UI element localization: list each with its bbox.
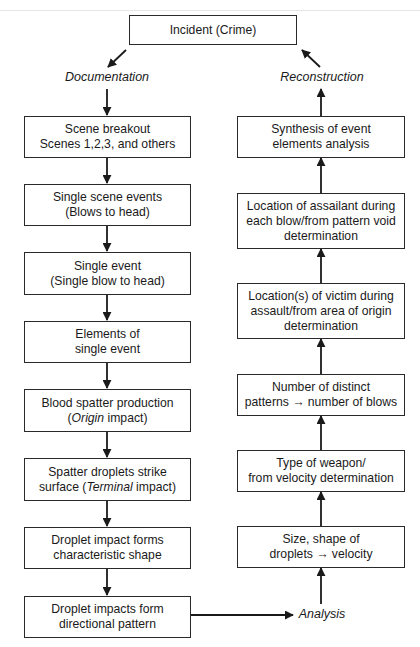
box-line: patterns → number of blows [245, 395, 397, 410]
box-line: Droplet impact forms [51, 533, 163, 548]
box-line: determination [284, 319, 358, 334]
box-line: Size, shape of [282, 532, 359, 547]
documentation-label: Documentation [65, 70, 149, 84]
droplet-impacts-pattern-box: Droplet impacts form directional pattern [24, 596, 191, 638]
box-line: Droplet impacts form [51, 602, 163, 617]
box-line: elements analysis [273, 137, 370, 152]
box-line: directional pattern [59, 617, 156, 632]
box-line: Synthesis of event [271, 122, 371, 137]
box-line: assault/from area of origin [251, 304, 392, 319]
box-line: from velocity determination [248, 471, 394, 486]
box-line: Single scene events [53, 190, 162, 205]
single-event-box: Single event (Single blow to head) [24, 252, 191, 295]
box-line: Single event [74, 259, 141, 274]
box-line-origin: (Origin impact) [68, 411, 148, 426]
scene-breakout-box: Scene breakout Scenes 1,2,3, and others [24, 116, 191, 158]
assailant-location-box: Location of assailant during each blow/f… [237, 193, 405, 249]
incident-label: Incident (Crime) [170, 23, 257, 38]
box-line: each blow/from pattern void [246, 214, 396, 229]
terminal-italic: Terminal [86, 480, 132, 494]
droplet-impact-shape-box: Droplet impact forms characteristic shap… [24, 527, 191, 569]
box-line: (Blows to head) [65, 205, 150, 220]
box-line: droplets → velocity [270, 547, 373, 562]
box-line: Spatter droplets strike [48, 465, 167, 480]
box-line: Elements of [75, 327, 139, 342]
box-line: characteristic shape [53, 548, 161, 563]
single-scene-events-box: Single scene events (Blows to head) [24, 184, 191, 226]
spatter-droplets-strike-box: Spatter droplets strike surface (Termina… [24, 458, 191, 501]
blood-spatter-production-box: Blood spatter production (Origin impact) [24, 389, 191, 432]
number-of-patterns-box: Number of distinct patterns → number of … [237, 374, 405, 416]
box-line: Scene breakout [65, 122, 150, 137]
box-line: Type of weapon/ [276, 456, 365, 471]
size-shape-droplets-box: Size, shape of droplets → velocity [237, 526, 405, 568]
box-line-terminal: surface (Terminal impact) [39, 480, 176, 495]
box-line: Blood spatter production [41, 396, 173, 411]
box-line: Location of assailant during [247, 199, 395, 214]
synthesis-box: Synthesis of event elements analysis [237, 116, 405, 158]
victim-location-box: Location(s) of victim during assault/fro… [237, 283, 405, 339]
box-line: single event [75, 342, 140, 357]
reconstruction-label: Reconstruction [280, 70, 363, 84]
elements-of-single-event-box: Elements of single event [24, 321, 191, 363]
weapon-type-box: Type of weapon/ from velocity determinat… [237, 450, 405, 492]
box-line: determination [284, 229, 358, 244]
incident-crime-box: Incident (Crime) [129, 15, 297, 45]
box-line: Scenes 1,2,3, and others [40, 137, 176, 152]
origin-italic: Origin [72, 411, 105, 425]
box-line: Location(s) of victim during [248, 289, 394, 304]
box-line: Number of distinct [272, 380, 370, 395]
analysis-label: Analysis [299, 607, 346, 621]
box-line: (Single blow to head) [50, 274, 165, 289]
